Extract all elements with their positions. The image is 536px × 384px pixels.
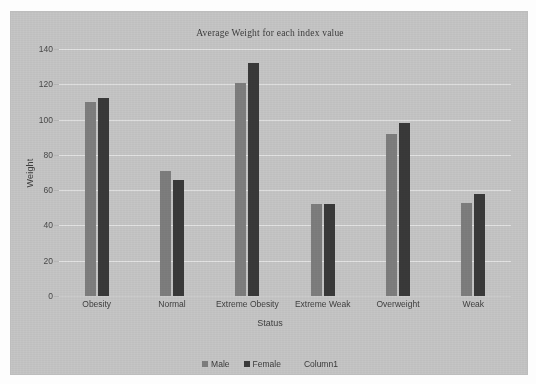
y-tick-label-0: 0	[17, 291, 53, 301]
x-axis-tick-labels: ObesityNormalExtreme ObesityExtreme Weak…	[59, 299, 511, 315]
x-tick-label-obesity: Obesity	[82, 299, 111, 309]
x-axis-title: Status	[11, 318, 529, 328]
y-tick-mark-140	[54, 49, 59, 50]
legend-label: Male	[211, 359, 229, 369]
legend-swatch-icon-column1	[295, 361, 301, 367]
y-tick-label-140: 140	[17, 44, 53, 54]
chart-title: Average Weight for each index value	[11, 28, 529, 38]
legend-item-male[interactable]: Male	[202, 359, 229, 369]
y-tick-label-120: 120	[17, 79, 53, 89]
y-tick-mark-60	[54, 190, 59, 191]
legend-item-column1[interactable]: Column1	[295, 359, 338, 369]
legend-label: Female	[253, 359, 281, 369]
gridline-0	[59, 296, 511, 297]
y-axis-title-label: Weight	[25, 158, 35, 187]
y-tick-label-100: 100	[17, 115, 53, 125]
x-tick-label-normal: Normal	[158, 299, 185, 309]
y-tick-mark-80	[54, 155, 59, 156]
y-tick-mark-0	[54, 296, 59, 297]
legend-swatch-icon-female	[244, 361, 250, 367]
y-tick-mark-40	[54, 225, 59, 226]
y-tick-mark-120	[54, 84, 59, 85]
y-tick-mark-20	[54, 261, 59, 262]
y-tick-label-80: 80	[17, 150, 53, 160]
x-tick-label-weak: Weak	[463, 299, 485, 309]
x-tick-label-extreme-obesity: Extreme Obesity	[216, 299, 279, 309]
chart-legend: MaleFemaleColumn1	[11, 359, 529, 369]
y-tick-mark-100	[54, 120, 59, 121]
legend-swatch-icon-male	[202, 361, 208, 367]
screenshot-canvas: Average Weight for each index value Weig…	[0, 0, 536, 384]
y-tick-label-20: 20	[17, 256, 53, 266]
y-tick-label-40: 40	[17, 220, 53, 230]
legend-item-female[interactable]: Female	[244, 359, 281, 369]
x-tick-label-overweight: Overweight	[377, 299, 420, 309]
legend-label: Column1	[304, 359, 338, 369]
chart-image-object[interactable]: Average Weight for each index value Weig…	[10, 11, 528, 375]
y-tick-label-60: 60	[17, 185, 53, 195]
y-axis-tick-labels: 020406080100120140	[59, 49, 511, 296]
x-tick-label-extreme-weak: Extreme Weak	[295, 299, 351, 309]
